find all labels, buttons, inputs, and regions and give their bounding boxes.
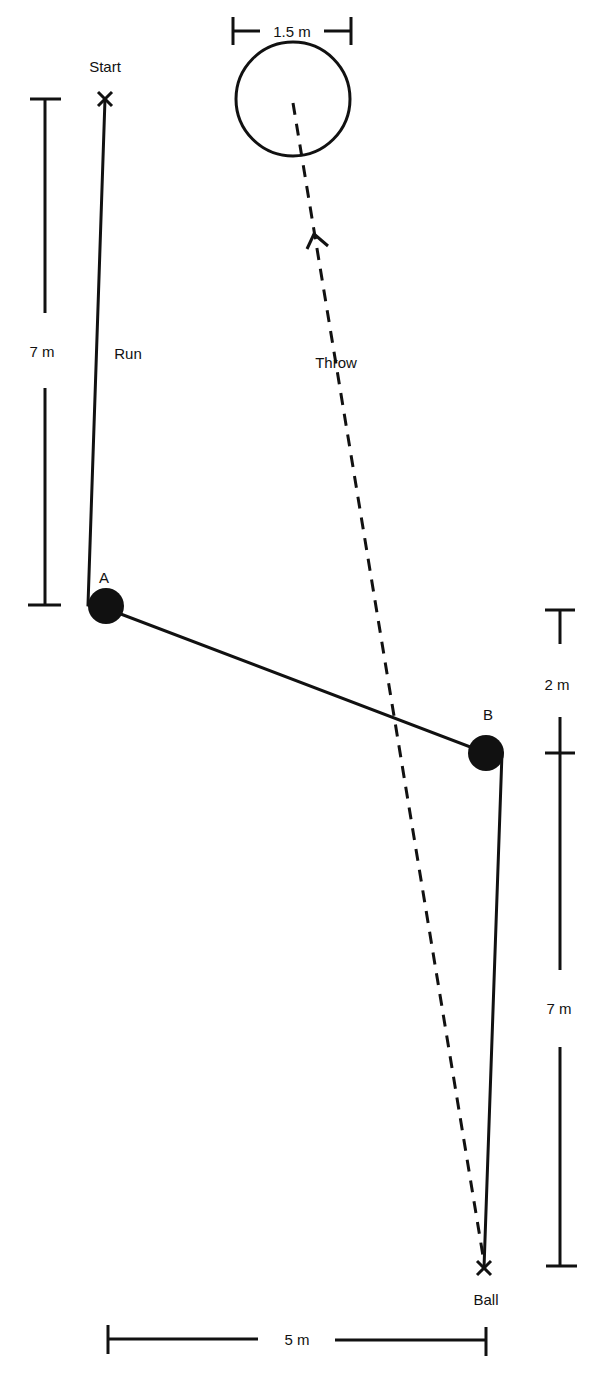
run-path — [88, 99, 502, 1268]
throw-path — [293, 103, 484, 1262]
point-b-label: B — [483, 706, 493, 723]
run-label: Run — [114, 345, 142, 362]
start-to-a-label: 7 m — [29, 343, 54, 360]
throw-label: Throw — [315, 354, 357, 371]
point-a-label: A — [99, 569, 109, 586]
a-to-b-label: 2 m — [544, 676, 569, 693]
start-label: Start — [89, 58, 121, 75]
horizontal-width-label: 5 m — [284, 1331, 309, 1348]
cone-a — [88, 588, 124, 624]
throw-arrowhead-icon — [307, 234, 328, 249]
cone-b — [468, 735, 504, 771]
ball-label: Ball — [473, 1291, 498, 1308]
b-to-ball-label: 7 m — [546, 1000, 571, 1017]
drill-diagram — [0, 0, 603, 1380]
circle-diameter-label: 1.5 m — [273, 23, 311, 40]
target-circle — [236, 42, 350, 156]
